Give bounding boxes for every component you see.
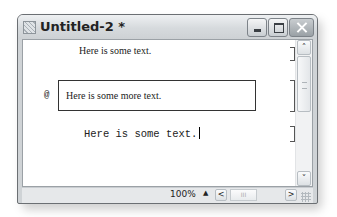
chevron-right-icon: > [288,190,295,199]
window-title: Untitled-2 * [40,19,125,34]
scroll-down-button[interactable]: ˅ [297,171,311,186]
paragraph-3[interactable]: Here is some text. [84,127,200,140]
paragraph-3-text: Here is some text. [84,128,197,140]
minimize-button[interactable] [247,18,267,37]
zoom-level[interactable]: 100% [170,189,196,199]
cell-marker: @ [44,90,49,100]
scroll-up-button[interactable]: ˄ [297,40,311,55]
scroll-left-button[interactable]: < [215,189,227,201]
paragraph-1[interactable]: Here is some text. [79,45,151,56]
app-document-icon[interactable] [23,21,36,34]
horizontal-scroll-thumb[interactable]: III [230,189,257,201]
document-area[interactable]: Here is some text. @ Here is some more t… [22,39,313,187]
close-button[interactable] [289,18,314,37]
paragraph-2[interactable]: Here is some more text. [66,90,161,101]
chevron-up-icon: ˄ [302,42,307,52]
text-caret [199,127,200,139]
title-bar[interactable]: Untitled-2 * [18,15,317,39]
editor-window: Untitled-2 * Here is some text. @ Here i… [17,14,318,204]
chevron-left-icon: < [218,190,225,199]
status-bar: 100% ▲ < III > [22,187,313,203]
vertical-scroll-thumb[interactable] [297,56,311,112]
grip-icon: III [241,191,246,198]
zoom-menu-arrow-icon[interactable]: ▲ [203,189,208,197]
chevron-down-icon: ˅ [302,173,307,183]
maximize-button[interactable] [268,18,288,37]
selected-cell[interactable]: Here is some more text. [58,80,256,111]
grip-icon [302,82,307,89]
scroll-right-button[interactable]: > [285,189,297,201]
vertical-scrollbar[interactable]: ˄ ˅ [295,40,312,186]
resize-grip-icon[interactable] [301,192,311,202]
